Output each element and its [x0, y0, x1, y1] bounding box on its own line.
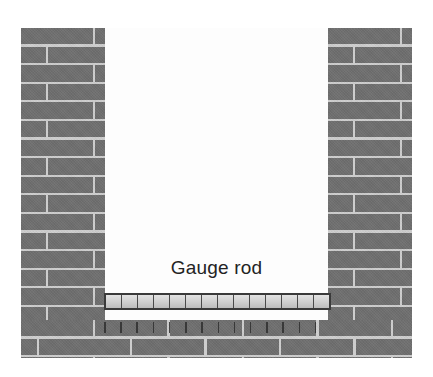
left-brick-pier	[21, 28, 105, 320]
gauge-rod	[104, 293, 331, 310]
gauge-rod-segment	[106, 295, 122, 308]
gauge-rod-label: Gauge rod	[105, 257, 328, 279]
gauge-rod-segment	[250, 295, 266, 308]
gauge-rod-segment	[202, 295, 218, 308]
brick-texture-overlay	[328, 28, 412, 320]
gauge-rod-segment	[218, 295, 234, 308]
right-brick-pier	[328, 28, 412, 320]
gauge-rod-segment	[266, 295, 282, 308]
brick-texture-overlay	[21, 320, 412, 358]
gauge-rod-segment	[234, 295, 250, 308]
gauge-rod-segment	[170, 295, 186, 308]
gauge-rod-segment	[314, 295, 329, 308]
gauge-rod-segment	[282, 295, 298, 308]
gauge-rod-segment	[154, 295, 170, 308]
gauge-rod-segment	[122, 295, 138, 308]
base-brick-courses	[21, 320, 412, 358]
gauge-rod-segment	[298, 295, 314, 308]
masonry-gauge-rod-figure: Gauge rod	[0, 0, 433, 377]
gauge-rod-segment	[138, 295, 154, 308]
brick-texture-overlay	[21, 28, 105, 320]
gauge-rod-segment	[186, 295, 202, 308]
